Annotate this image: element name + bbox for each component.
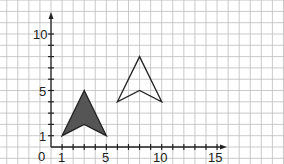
coordinate-grid: 0 1 5 10 15 1 5 10 (0, 0, 284, 164)
y-axis-arrow-icon (49, 12, 54, 19)
x-axis-arrow-icon (220, 145, 227, 150)
y-tick-label-5: 5 (39, 84, 46, 99)
x-tick-label-1: 1 (58, 150, 65, 164)
origin-label: 0 (38, 149, 45, 164)
x-tick-label-5: 5 (102, 150, 109, 164)
shapes (62, 57, 162, 136)
y-tick-label-10: 10 (33, 27, 47, 42)
x-tick-label-10: 10 (153, 150, 167, 164)
axis-labels: 0 1 5 10 15 1 5 10 (33, 27, 222, 164)
x-tick-label-15: 15 (208, 150, 222, 164)
y-tick-label-1: 1 (39, 129, 46, 144)
